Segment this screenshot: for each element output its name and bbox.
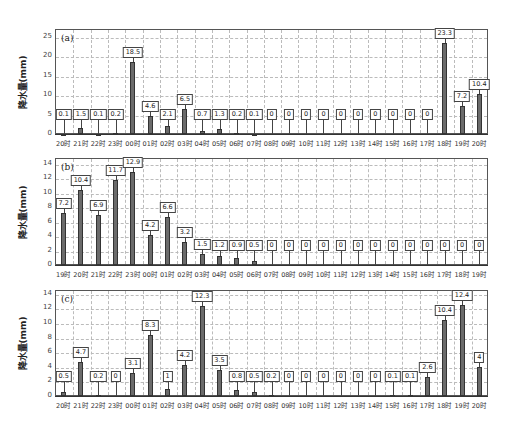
bar [269, 395, 274, 397]
x-tick-label: 19时 [468, 269, 490, 279]
value-leader [410, 250, 411, 265]
value-label: 0 [474, 240, 484, 251]
value-label: 0 [370, 109, 380, 120]
value-label: 0 [301, 240, 311, 251]
y-tick-label: 25 [38, 32, 52, 40]
grid-line-h [56, 324, 487, 325]
x-axis-baseline [55, 134, 488, 135]
grid-line-h [56, 295, 487, 296]
y-tick-label: 10 [38, 90, 52, 98]
y-tick-label: 14 [38, 289, 52, 297]
panel-label: (a) [61, 33, 73, 43]
value-label: 0 [353, 240, 363, 251]
value-label: 10.4 [434, 305, 454, 316]
value-label: 0.5 [55, 371, 71, 382]
value-leader [237, 381, 238, 390]
y-tick-label: 5 [38, 110, 52, 118]
grid-line-h [56, 309, 487, 310]
bar [234, 258, 239, 265]
value-label: 6.6 [159, 202, 175, 213]
value-leader [254, 119, 255, 134]
grid-line-v [316, 30, 317, 133]
bar [61, 213, 66, 265]
value-leader [116, 381, 117, 396]
bar [460, 305, 465, 396]
value-label: 2.1 [159, 109, 175, 120]
value-leader [272, 250, 273, 265]
value-label: 0 [301, 109, 311, 120]
value-label: 0.8 [229, 371, 245, 382]
grid-line-v [420, 30, 421, 133]
value-leader [98, 119, 99, 134]
grid-line-v [177, 159, 178, 264]
value-leader [375, 250, 376, 265]
grid-line-v [195, 291, 196, 395]
grid-line-v [143, 30, 144, 133]
value-leader [358, 119, 359, 134]
value-label: 3.2 [177, 227, 193, 238]
grid-line-v [177, 30, 178, 133]
bar [217, 256, 222, 265]
value-leader [272, 381, 273, 395]
y-axis-label: 降水量(mm) [16, 317, 29, 371]
bar [96, 215, 101, 265]
value-label: 0 [336, 240, 346, 251]
grid-line-v [125, 30, 126, 133]
value-label: 8.3 [142, 320, 158, 331]
bar [217, 370, 222, 396]
grid-line-h [56, 77, 487, 78]
bar [182, 365, 187, 396]
value-label: 1 [163, 371, 173, 382]
value-leader [358, 381, 359, 396]
grid-line-v [125, 291, 126, 395]
value-leader [168, 381, 169, 389]
grid-line-h [56, 237, 487, 238]
grid-line-v [108, 291, 109, 395]
bar [148, 335, 153, 396]
value-label: 0 [336, 371, 346, 382]
value-label: 0 [111, 371, 121, 382]
value-label: 0.5 [246, 371, 262, 382]
value-label: 0.1 [55, 109, 71, 120]
y-tick-label: 0 [38, 260, 52, 268]
value-label: 0 [370, 371, 380, 382]
value-leader [64, 119, 65, 134]
bar [130, 373, 135, 396]
bar [165, 217, 170, 265]
value-label: 0 [318, 240, 328, 251]
panel-label: (b) [61, 162, 74, 172]
grid-line-v [454, 159, 455, 264]
grid-line-h [56, 223, 487, 224]
value-leader [237, 250, 238, 258]
value-leader [341, 250, 342, 265]
grid-line-v [316, 159, 317, 264]
grid-line-h [56, 194, 487, 195]
value-label: 0 [353, 371, 363, 382]
bar [442, 43, 447, 134]
y-axis-label: 降水量(mm) [16, 55, 29, 109]
x-tick-label: 20时 [468, 138, 490, 148]
grid-line-v [402, 159, 403, 264]
value-label: 1.5 [73, 109, 89, 120]
value-leader [445, 250, 446, 265]
value-label: 0 [284, 240, 294, 251]
bar [96, 395, 101, 397]
value-label: 4.7 [73, 347, 89, 358]
value-label: 0.2 [107, 109, 123, 120]
grid-line-v [333, 30, 334, 133]
value-label: 0 [457, 240, 467, 251]
y-tick-label: 14 [38, 159, 52, 167]
value-leader [323, 119, 324, 134]
x-tick-label: 20时 [468, 400, 490, 410]
value-leader [289, 119, 290, 134]
value-label: 0.5 [246, 240, 262, 251]
y-tick-label: 0 [38, 129, 52, 137]
value-leader [64, 381, 65, 392]
value-label: 0 [266, 240, 276, 251]
bar [200, 131, 205, 134]
bar [113, 180, 118, 265]
grid-line-v [281, 30, 282, 133]
value-label: 0.2 [263, 371, 279, 382]
value-label: 0 [388, 240, 398, 251]
bar [252, 392, 257, 396]
